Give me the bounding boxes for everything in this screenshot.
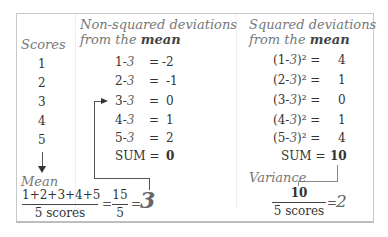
score-value: 1	[38, 57, 46, 71]
header-bold-mean: mean	[310, 32, 350, 47]
mean-arrow-segment-up	[149, 178, 150, 190]
squared-sum-value: 10	[330, 149, 347, 163]
non-squared-row: 5-3	[115, 131, 134, 145]
mean-result: 3	[140, 187, 155, 213]
non-squared-eq: =	[149, 74, 159, 88]
right-arrow-icon	[101, 98, 108, 104]
variance-numerator: 10	[272, 186, 326, 200]
mean-label: Mean	[21, 174, 58, 189]
non-squared-result: 0	[166, 94, 174, 108]
squared-result: 1	[338, 73, 346, 87]
variance-result: 2	[336, 191, 347, 211]
non-squared-result: -1	[166, 74, 178, 88]
non-squared-header-line1: Non-squared deviations	[80, 17, 237, 32]
non-squared-row: 4-3	[115, 113, 134, 127]
mean-equals-1: =	[102, 197, 112, 211]
down-arrow-icon	[38, 166, 46, 173]
squared-header-line2: from the mean	[249, 32, 350, 47]
non-squared-eq: =	[149, 113, 159, 127]
non-squared-header-line2: from the mean	[80, 32, 181, 47]
non-squared-eq: =	[149, 131, 159, 145]
score-value: 3	[38, 95, 46, 109]
variance-fraction-bar	[272, 202, 326, 203]
score-value: 4	[38, 114, 46, 128]
mean-fraction2-bar	[112, 204, 128, 205]
squared-row: (4-3)² =	[273, 113, 320, 127]
score-value: 5	[38, 133, 46, 147]
squared-row: (2-3)² =	[273, 73, 320, 87]
squared-row: (3-3)² =	[273, 93, 320, 107]
squared-row: (1-3)² =	[273, 53, 320, 67]
non-squared-result: 2	[166, 131, 174, 145]
mean-denominator: 5 scores	[22, 206, 98, 220]
non-squared-row: 1-3	[115, 55, 134, 69]
non-squared-sum-value: 0	[166, 149, 174, 163]
squared-header-line1: Squared deviations	[249, 17, 376, 32]
non-squared-eq: =	[149, 55, 159, 69]
non-squared-result: 1	[166, 113, 174, 127]
column-divider-left	[75, 14, 76, 209]
scores-header: Scores	[21, 37, 66, 52]
squared-row: (5-3)² =	[273, 131, 320, 145]
score-value: 2	[38, 76, 46, 90]
variance-denominator: 5 scores	[272, 204, 326, 218]
header-bold-mean: mean	[141, 32, 181, 47]
squared-result: 1	[338, 113, 346, 127]
squared-result: 0	[338, 93, 346, 107]
squared-result: 4	[338, 53, 346, 67]
non-squared-row: 3-3	[115, 94, 134, 108]
non-squared-result: -2	[162, 55, 174, 69]
header-prefix: from the	[249, 32, 310, 47]
mean-fraction-bar	[22, 204, 98, 205]
non-squared-sum-label: SUM =	[115, 149, 160, 163]
column-divider-right	[236, 14, 237, 209]
non-squared-row: 2-3	[115, 74, 134, 88]
mean-numerator: 1+2+3+4+5	[22, 188, 98, 202]
mean-fraction2-denominator: 5	[112, 206, 128, 220]
squared-result: 4	[338, 131, 346, 145]
non-squared-eq: =	[149, 94, 159, 108]
variance-connector-vertical	[337, 165, 338, 181]
mean-fraction2-numerator: 15	[112, 188, 128, 202]
squared-sum-label: SUM =	[281, 149, 326, 163]
header-prefix: from the	[80, 32, 141, 47]
mean-arrow-segment-vertical	[94, 101, 95, 179]
variance-label: Variance	[249, 170, 306, 185]
mean-arrow-segment-horizontal	[94, 178, 150, 179]
